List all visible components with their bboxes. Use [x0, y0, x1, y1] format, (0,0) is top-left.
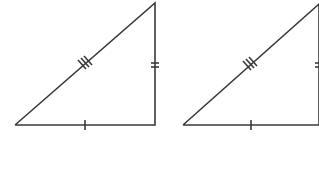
- triangle-left: [15, 3, 159, 130]
- hypotenuse-triple-tick: [78, 56, 92, 69]
- triangle-left-outline: [15, 3, 155, 125]
- congruent-triangles-diagram: [0, 0, 319, 176]
- hypotenuse-triple-tick: [243, 57, 257, 70]
- triangle-right: [183, 4, 319, 130]
